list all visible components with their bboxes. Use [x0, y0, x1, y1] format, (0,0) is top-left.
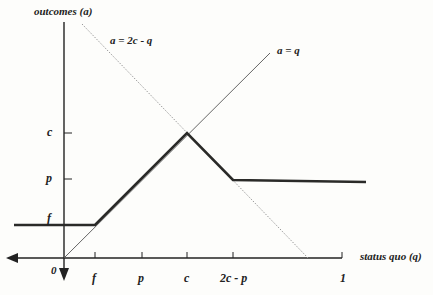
diagonal-line-label: a = q	[277, 44, 300, 56]
y-tick-label-f: f	[47, 211, 51, 226]
x-tick-label-2c-p: 2c - p	[220, 271, 247, 286]
y-axis-label: outcomes (a)	[34, 5, 92, 17]
origin-label: 0	[51, 264, 57, 276]
dotted-line-label: a = 2c - q	[110, 34, 152, 46]
x-tick-label-p: p	[138, 271, 144, 286]
x-tick-label-c: c	[184, 271, 189, 286]
y-axis-arrow-icon	[59, 268, 69, 281]
x-axis-label: status quo (q)	[360, 250, 422, 262]
x-axis-arrow-icon	[6, 253, 18, 263]
x-tick-label-f: f	[92, 271, 96, 286]
y-tick-label-p: p	[46, 171, 52, 186]
y-tick-label-c: c	[47, 125, 52, 140]
diagonal-line-a-q	[64, 53, 270, 258]
y-ticks	[64, 133, 72, 179]
x-tick-label-1: 1	[340, 271, 346, 286]
